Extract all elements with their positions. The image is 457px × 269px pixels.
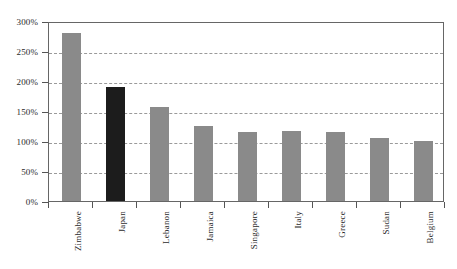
- x-axis-tick: [180, 202, 181, 208]
- gridline: [49, 53, 443, 54]
- plot-area: [48, 22, 444, 202]
- x-axis-tick: [268, 202, 269, 208]
- x-axis-tick: [400, 202, 401, 208]
- x-axis-tick: [444, 202, 445, 208]
- y-axis-tick: [42, 22, 48, 23]
- x-axis-label: Sudan: [382, 211, 391, 235]
- x-axis-tick: [312, 202, 313, 208]
- gridline: [49, 83, 443, 84]
- bar-chart: 0%50%100%150%200%250%300% ZimbabweJapanL…: [0, 0, 457, 269]
- y-axis-label: 200%: [0, 78, 38, 87]
- x-axis-label: Belgium: [426, 211, 435, 243]
- x-axis-tick: [48, 202, 49, 208]
- x-axis-label: Japan: [118, 211, 127, 233]
- y-axis-label: 150%: [0, 108, 38, 117]
- y-axis-tick: [42, 172, 48, 173]
- x-axis-label: Greece: [338, 211, 347, 238]
- y-axis-label: 100%: [0, 138, 38, 147]
- y-axis-label: 0%: [0, 198, 38, 207]
- x-axis-label: Singapore: [250, 211, 259, 249]
- y-axis-label: 250%: [0, 48, 38, 57]
- y-axis-tick: [42, 112, 48, 113]
- bar-japan[interactable]: [106, 87, 125, 201]
- x-axis-tick: [92, 202, 93, 208]
- y-axis-tick: [42, 142, 48, 143]
- x-axis-tick: [356, 202, 357, 208]
- x-axis-label: Italy: [294, 211, 303, 229]
- x-axis-label: Zimbabwe: [74, 211, 83, 251]
- x-axis-label: Lebanon: [162, 211, 171, 244]
- x-axis-label: Jamaica: [206, 211, 215, 241]
- x-axis-tick: [136, 202, 137, 208]
- y-axis-label: 300%: [0, 18, 38, 27]
- y-axis-tick: [42, 52, 48, 53]
- x-axis-tick: [224, 202, 225, 208]
- y-axis-tick: [42, 82, 48, 83]
- bar-italy[interactable]: [282, 131, 301, 201]
- y-axis-label: 50%: [0, 168, 38, 177]
